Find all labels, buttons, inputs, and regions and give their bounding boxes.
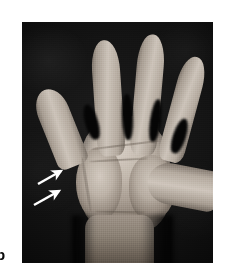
hand — [22, 22, 213, 263]
web-space-2 — [121, 94, 133, 140]
figure-panel: b — [0, 0, 225, 278]
little-finger — [156, 54, 209, 165]
wrist-shadow-right — [142, 215, 173, 263]
clinical-photo — [22, 22, 213, 263]
wrist-shadow-left — [72, 215, 95, 263]
panel-label: b — [0, 247, 5, 262]
